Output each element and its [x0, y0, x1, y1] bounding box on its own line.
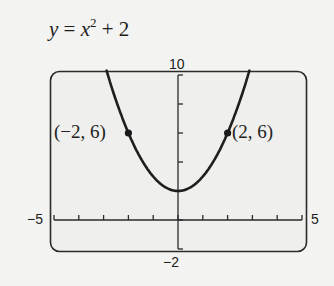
ymax-label: 10 [169, 56, 185, 72]
xmin-label: −5 [27, 211, 43, 227]
point-marker [125, 129, 132, 136]
graph-screen [0, 0, 334, 286]
xmax-label: 5 [311, 211, 319, 227]
point-label-right: (2, 6) [232, 121, 273, 143]
ymin-label: −2 [163, 254, 179, 270]
point-label-left: (−2, 6) [54, 121, 106, 143]
point-marker [224, 129, 231, 136]
